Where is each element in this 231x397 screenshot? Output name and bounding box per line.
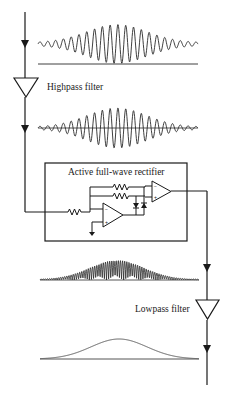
svg-text:−: − [154,183,157,189]
feedback-resistor-icon [90,184,152,190]
arrow-down-icon [203,264,211,272]
feedback-resistor-icon [90,193,145,199]
lowpass-filter-symbol [196,300,219,319]
input-waveform [38,25,198,64]
input-resistor-icon [66,209,90,215]
arrow-down-icon [203,345,211,353]
diode-icon [133,203,139,208]
envelope-waveform [40,339,199,359]
diode-icon [141,203,147,208]
lowpass-filter-label: Lowpass filter [135,304,190,314]
rectified-waveform [40,261,199,280]
highpass-filter-label: Highpass filter [47,82,103,92]
ground-icon [89,232,95,236]
svg-text:−: − [105,206,108,212]
svg-text:+: + [154,194,157,200]
rectifier-label: Active full-wave rectifier [68,167,165,177]
highpass-filter-symbol [14,78,38,97]
svg-text:+: + [105,219,108,225]
arrow-down-icon [21,125,29,133]
signal-chain-diagram: −+ −+ [0,0,231,397]
highpass-waveform [38,108,198,148]
arrow-down-icon [21,40,29,48]
